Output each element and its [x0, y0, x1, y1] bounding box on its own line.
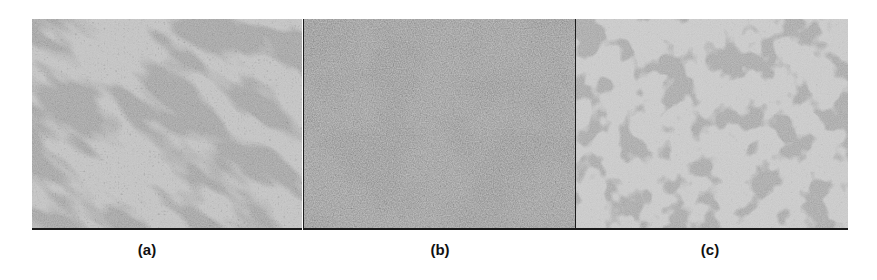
- cell-culture-image-c: [576, 19, 848, 228]
- micrograph-panel-c: [575, 19, 848, 230]
- panel-label-a: (a): [127, 241, 167, 258]
- panel-label-c: (c): [690, 241, 730, 258]
- cell-culture-image-b: [304, 19, 575, 228]
- panel-label-b: (b): [420, 241, 460, 258]
- micrograph-panel-b: [303, 19, 575, 230]
- cell-culture-image-a: [32, 19, 302, 228]
- micrograph-panel-a: [32, 19, 302, 230]
- micrograph-figure: [32, 19, 847, 230]
